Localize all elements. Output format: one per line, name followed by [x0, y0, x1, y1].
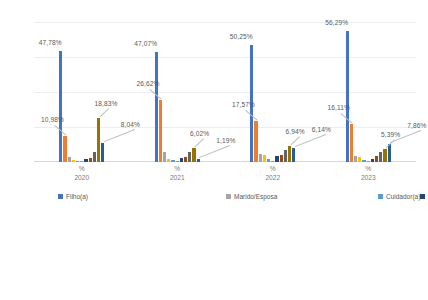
bar[interactable]	[171, 160, 174, 162]
x-axis-tick-2021: %2021	[130, 164, 226, 182]
legend-item[interactable]: Cuidador(a)	[378, 190, 420, 203]
axis-unit: %	[225, 164, 321, 173]
bar[interactable]	[275, 156, 278, 162]
data-label: 6,14%	[312, 126, 331, 133]
bar[interactable]	[176, 161, 179, 162]
data-label: 8,04%	[121, 121, 140, 128]
bar[interactable]	[184, 157, 187, 162]
bar[interactable]	[180, 158, 183, 162]
data-label: 10,98%	[41, 116, 64, 123]
data-label: 7,86%	[407, 122, 426, 129]
bar[interactable]	[259, 154, 262, 162]
x-axis-tick-2023: %2023	[321, 164, 417, 182]
data-label: 50,25%	[230, 33, 253, 40]
data-label: 16,11%	[327, 104, 349, 111]
data-label: 26,62%	[136, 80, 159, 87]
bar[interactable]	[358, 157, 361, 162]
axis-unit: %	[321, 164, 417, 173]
bar[interactable]	[263, 155, 266, 162]
bar[interactable]	[93, 152, 96, 163]
axis-year: 2022	[225, 173, 321, 182]
chart-legend: Filho(a)Marido/EsposaCuidador(a)Ex-marid…	[58, 190, 378, 203]
plot-area: 47,78%10,98%18,83%8,04%47,07%26,62%6,02%…	[34, 22, 416, 162]
data-label: 56,29%	[325, 19, 348, 26]
bar[interactable]	[367, 161, 370, 162]
bar[interactable]	[84, 159, 87, 162]
bar[interactable]	[167, 159, 170, 163]
bar[interactable]	[163, 152, 166, 162]
legend-label: Filho(a)	[66, 190, 88, 203]
bar[interactable]	[63, 136, 66, 162]
bars	[247, 22, 299, 162]
bars	[151, 22, 203, 162]
bar[interactable]	[72, 160, 75, 162]
bar[interactable]	[354, 156, 357, 162]
bar[interactable]	[97, 118, 100, 162]
bar-chart: 47,78%10,98%18,83%8,04%47,07%26,62%6,02%…	[0, 0, 428, 300]
bar[interactable]	[350, 124, 353, 162]
bar[interactable]	[280, 155, 283, 162]
bar[interactable]	[362, 160, 365, 162]
bar[interactable]	[383, 149, 386, 162]
axis-year: 2021	[130, 173, 226, 182]
legend-swatch-icon	[420, 194, 425, 199]
bar-group-2023	[321, 22, 417, 162]
x-axis-tick-2022: %2022	[225, 164, 321, 182]
bar[interactable]	[155, 52, 158, 162]
bar[interactable]	[371, 159, 374, 162]
legend-item[interactable]: Marido/Esposa	[226, 190, 378, 203]
bar[interactable]	[346, 31, 349, 162]
bar[interactable]	[192, 148, 195, 162]
axis-year: 2023	[321, 173, 417, 182]
bar[interactable]	[254, 121, 257, 162]
bars	[56, 22, 108, 162]
bar[interactable]	[292, 148, 295, 162]
bar[interactable]	[284, 150, 287, 162]
data-label: 5,39%	[381, 131, 400, 138]
data-label: 6,94%	[286, 128, 305, 135]
bar[interactable]	[76, 161, 79, 162]
bars	[342, 22, 394, 162]
bar[interactable]	[59, 51, 62, 162]
bar[interactable]	[80, 161, 83, 162]
legend-label: Marido/Esposa	[234, 190, 277, 203]
bar[interactable]	[159, 100, 162, 162]
x-axis-labels: %2020%2021%2022%2023	[34, 164, 416, 182]
legend-item[interactable]: Ex-marido(esposa)/Ex-companheiro(a)	[420, 190, 428, 203]
data-label: 1,19%	[216, 137, 235, 144]
x-axis-tick-2020: %2020	[34, 164, 130, 182]
bar[interactable]	[89, 158, 92, 162]
legend-item[interactable]: Filho(a)	[58, 190, 226, 203]
bar[interactable]	[288, 146, 291, 162]
axis-year: 2020	[34, 173, 130, 182]
legend-swatch-icon	[378, 194, 383, 199]
legend-swatch-icon	[58, 194, 63, 199]
data-label: 18,83%	[95, 100, 118, 107]
axis-unit: %	[34, 164, 130, 173]
legend-label: Cuidador(a)	[386, 190, 420, 203]
bar[interactable]	[379, 152, 382, 162]
bar[interactable]	[267, 159, 270, 162]
data-label: 47,07%	[134, 40, 157, 47]
bar[interactable]	[188, 152, 191, 162]
bar[interactable]	[197, 159, 200, 162]
bar[interactable]	[271, 161, 274, 162]
data-label: 17,57%	[232, 101, 255, 108]
data-label: 6,02%	[190, 130, 209, 137]
bar[interactable]	[375, 156, 378, 162]
bar[interactable]	[101, 143, 104, 162]
axis-unit: %	[130, 164, 226, 173]
data-label: 47,78%	[39, 39, 62, 46]
legend-swatch-icon	[226, 194, 231, 199]
bar[interactable]	[68, 157, 71, 162]
